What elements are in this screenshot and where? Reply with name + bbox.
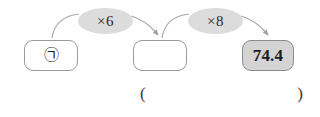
output-box-value: 74.4 <box>242 40 294 71</box>
answer-parenthesis-row: ( ) <box>140 82 303 104</box>
arrow-input-to-op1 <box>52 14 79 38</box>
output-box-label: 74.4 <box>253 47 284 64</box>
operator-multiply-8-label: ×8 <box>207 14 224 29</box>
operator-multiply-8: ×8 <box>188 8 243 34</box>
operator-multiply-6-label: ×6 <box>97 14 114 29</box>
operator-multiply-6: ×6 <box>78 8 133 34</box>
answer-close-paren: ) <box>297 85 303 102</box>
input-box-label: ㉠ <box>44 48 59 63</box>
middle-box-blank[interactable] <box>133 40 187 71</box>
answer-open-paren: ( <box>140 85 146 102</box>
arrow-op2-to-output <box>241 16 268 35</box>
input-box-unknown: ㉠ <box>24 40 78 71</box>
arrow-op1-to-middle <box>131 16 158 35</box>
arrow-middle-to-op2 <box>162 14 189 38</box>
worksheet-canvas: ×6 ×8 ㉠ 74.4 ( ) <box>0 0 320 117</box>
